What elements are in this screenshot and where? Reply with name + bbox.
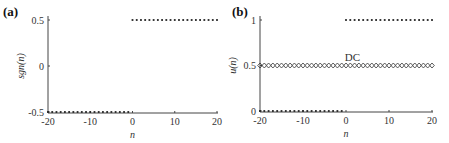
data-point	[81, 111, 83, 113]
data-point	[77, 111, 79, 113]
data-point	[60, 111, 62, 113]
data-point	[115, 111, 117, 113]
y-tick-label: 0.5	[32, 15, 45, 26]
dc-annotation: DC	[345, 51, 360, 63]
data-point	[362, 19, 364, 21]
data-point	[268, 110, 270, 112]
data-point	[216, 19, 218, 21]
data-point	[140, 19, 142, 21]
x-tick-label: 10	[170, 116, 180, 127]
y-axis-label: sgn(n)	[15, 53, 27, 79]
data-point	[165, 19, 167, 21]
data-point	[157, 19, 159, 21]
data-point	[47, 111, 49, 113]
data-point	[153, 19, 155, 21]
data-point	[328, 110, 330, 112]
data-point	[51, 111, 53, 113]
y-tick-label: 0.5	[244, 60, 257, 71]
data-series	[258, 63, 435, 68]
data-point	[98, 111, 100, 113]
data-point	[354, 19, 356, 21]
data-point	[332, 110, 334, 112]
data-point	[392, 19, 394, 21]
data-point	[289, 110, 291, 112]
y-tick-label: -0.5	[28, 107, 44, 118]
data-point	[410, 19, 412, 21]
data-point	[341, 110, 343, 112]
data-point	[170, 19, 172, 21]
data-point	[319, 110, 321, 112]
data-point	[106, 111, 108, 113]
data-point	[263, 110, 265, 112]
x-tick-label: 20	[427, 115, 437, 126]
data-point	[94, 111, 96, 113]
data-point	[68, 111, 70, 113]
data-point	[414, 19, 416, 21]
data-point	[187, 19, 189, 21]
data-point	[311, 110, 313, 112]
x-tick-label: 10	[384, 115, 394, 126]
data-point	[259, 110, 261, 112]
data-point	[324, 110, 326, 112]
data-point	[302, 110, 304, 112]
panel-label: (b)	[232, 4, 248, 19]
data-point	[149, 19, 151, 21]
data-point	[110, 111, 112, 113]
data-point	[405, 19, 407, 21]
data-point	[72, 111, 74, 113]
data-series	[345, 19, 433, 21]
x-tick-label: -10	[84, 116, 97, 127]
data-point	[195, 19, 197, 21]
data-point	[203, 19, 205, 21]
data-point	[178, 19, 180, 21]
data-point	[388, 19, 390, 21]
data-point	[367, 19, 369, 21]
x-tick-label: -20	[253, 115, 266, 126]
x-axis-label: n	[130, 129, 135, 140]
y-tick-label: 0	[39, 61, 44, 72]
data-point	[89, 111, 91, 113]
data-point	[337, 110, 339, 112]
data-point	[56, 111, 58, 113]
x-axis-label: n	[344, 128, 349, 139]
x-tick-label: 0	[344, 115, 349, 126]
y-tick-label: 1	[251, 15, 256, 26]
data-point	[64, 111, 66, 113]
data-point	[132, 19, 134, 21]
data-point	[102, 111, 104, 113]
data-point	[423, 19, 425, 21]
x-tick-label: -10	[296, 115, 309, 126]
data-point	[427, 19, 429, 21]
x-tick-label: -20	[41, 116, 54, 127]
x-tick-label: 0	[130, 116, 135, 127]
chart-canvas: (a)-20-1001020-0.500.5nsgn(n)(b)-20-1001…	[0, 0, 449, 143]
data-point	[127, 111, 129, 113]
data-point	[375, 19, 377, 21]
data-point	[285, 110, 287, 112]
data-point	[380, 19, 382, 21]
data-point	[345, 19, 347, 21]
data-point	[199, 19, 201, 21]
data-point	[85, 111, 87, 113]
data-point	[276, 110, 278, 112]
data-point	[182, 19, 184, 21]
data-point	[384, 19, 386, 21]
data-point	[349, 19, 351, 21]
data-point	[174, 19, 176, 21]
data-point	[191, 19, 193, 21]
y-tick-label: 0	[251, 106, 256, 117]
data-point	[161, 19, 163, 21]
data-point	[212, 19, 214, 21]
data-point	[306, 110, 308, 112]
y-axis-label: u(n)	[227, 57, 239, 74]
data-point	[298, 110, 300, 112]
data-point	[294, 110, 296, 112]
data-point	[123, 111, 125, 113]
data-point	[208, 19, 210, 21]
data-point	[144, 19, 146, 21]
data-point	[371, 19, 373, 21]
data-point	[119, 111, 121, 113]
data-point	[136, 19, 138, 21]
data-point	[401, 19, 403, 21]
panel-label: (a)	[3, 4, 18, 19]
